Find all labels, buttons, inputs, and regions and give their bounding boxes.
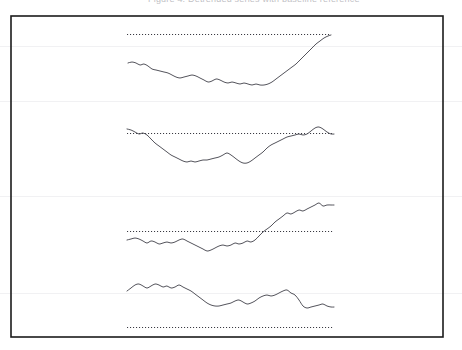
trace-4 — [127, 284, 334, 308]
trace-2 — [127, 127, 334, 163]
panel-4 — [127, 284, 334, 328]
trace-3 — [127, 203, 334, 251]
panel-layer — [127, 35, 334, 328]
figure-frame-wrap — [0, 0, 462, 350]
trace-1 — [128, 35, 331, 85]
plot-frame — [11, 16, 443, 337]
scanline-layer — [0, 47, 462, 294]
figure-canvas — [0, 0, 462, 350]
scanned-page: Figure 4. Detrended series with baseline… — [0, 0, 462, 350]
panel-2 — [127, 127, 334, 163]
panel-1 — [127, 35, 331, 86]
panel-3 — [127, 203, 334, 251]
